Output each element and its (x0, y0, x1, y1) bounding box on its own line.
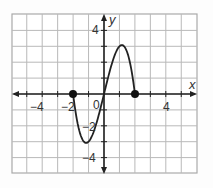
y-tick-label-neg2: −2 (82, 120, 96, 134)
y-tick-label-4: 4 (92, 23, 99, 37)
origin-label: 0 (93, 98, 100, 112)
endpoint-right (131, 90, 139, 98)
y-tick-label-neg4: −4 (82, 151, 96, 165)
x-tick-label-neg2: −2 (61, 100, 75, 114)
x-tick-label-4: 4 (163, 100, 170, 114)
x-tick-label-neg4: −4 (30, 100, 44, 114)
graph: x y 0 −4 −2 4 4 −2 −4 (0, 0, 213, 188)
x-axis-label: x (188, 77, 196, 92)
endpoint-left (69, 90, 77, 98)
